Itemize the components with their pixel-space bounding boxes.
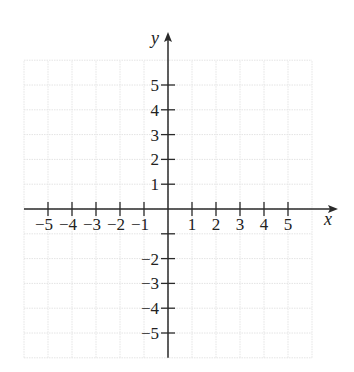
x-tick-label: −3 (83, 215, 101, 234)
y-tick-label: −4 (141, 299, 160, 318)
x-tick-label: −1 (131, 215, 149, 234)
axes (24, 32, 338, 358)
x-tick-label: −5 (35, 215, 53, 234)
x-tick-label: 4 (260, 215, 269, 234)
x-tick-label: 1 (188, 215, 197, 234)
y-axis-label: y (149, 28, 159, 48)
x-tick-label: 5 (284, 215, 293, 234)
y-tick-label: 2 (151, 150, 160, 169)
y-tick-label: 3 (151, 126, 160, 145)
y-tick-label: 5 (151, 76, 160, 95)
x-axis-label: x (323, 209, 332, 229)
x-tick-label: −2 (107, 215, 125, 234)
x-tick-label: 2 (212, 215, 221, 234)
y-tick-label: −5 (141, 324, 159, 343)
y-tick-label: 1 (151, 175, 160, 194)
y-tick-label: −2 (141, 250, 159, 269)
coordinate-plane: −5−4−3−2−112345 54321−2−3−4−5 x y (0, 0, 354, 372)
x-tick-label: 3 (236, 215, 245, 234)
x-tick-label: −4 (59, 215, 78, 234)
y-tick-label: −3 (141, 274, 159, 293)
y-tick-label: 4 (151, 101, 160, 120)
x-axis-ticks: −5−4−3−2−112345 (35, 202, 292, 234)
